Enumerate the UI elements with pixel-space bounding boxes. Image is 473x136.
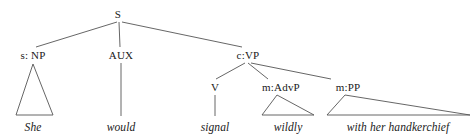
tree-branch-s-to-aux [119,22,120,47]
node-label-s: S [115,8,121,20]
terminal-word-signal: signal [201,121,230,133]
tree-branch-vp-to-pp [251,63,331,79]
tree-branch-s-to-np [36,22,117,47]
pp-triangle [327,95,470,115]
tree-edges [36,22,331,116]
tree-branch-s-to-vp [122,22,242,47]
node-label-aux: AUX [109,49,133,61]
node-label-advp: m:AdvP [262,81,300,93]
np-triangle [16,64,53,115]
tree-branch-vp-to-v [216,63,245,79]
advp-triangle [262,95,314,115]
terminal-word-wildly: wildly [274,121,303,133]
syntax-tree-diagram: Ss: NPAUXc:VPVm:AdvPm:PP Shewouldsignalw… [0,0,473,136]
node-label-vp: c:VP [237,49,260,61]
tree-lines-layer [0,0,473,136]
node-label-np: s: NP [20,49,45,61]
terminal-word-would: would [107,121,136,133]
node-label-pp: m:PP [336,81,361,93]
terminal-word-with: with her handkerchief [347,121,450,133]
node-label-v: V [211,81,219,93]
terminal-word-she: She [25,121,42,133]
tree-triangles [16,64,470,115]
